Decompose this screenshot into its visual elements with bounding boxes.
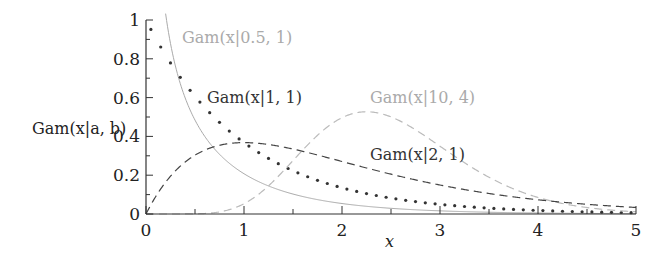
gamma-distribution-chart: 00.20.40.60.81012345 Gam(x|a, b) x Gam(x…: [0, 0, 668, 254]
x-tick-label: 4: [533, 220, 544, 240]
curve-label-gam-1-1: Gam(x|1, 1): [207, 88, 302, 107]
x-tick-label: 0: [141, 220, 152, 240]
y-axis-label: Gam(x|a, b): [32, 119, 126, 138]
y-tick-label: 0.8: [113, 49, 140, 69]
x-tick-label: 5: [631, 220, 642, 240]
y-tick-label: 0.2: [113, 165, 140, 185]
x-tick-label: 2: [337, 220, 348, 240]
curve-label-gam-0.5-1: Gam(x|0.5, 1): [182, 28, 292, 47]
x-tick-label: 1: [239, 220, 250, 240]
curve-label-gam-10-4: Gam(x|10, 4): [370, 88, 475, 107]
y-tick-label: 0.6: [113, 88, 140, 108]
series-gam-x-1-1-: [149, 28, 632, 214]
curve-label-gam-2-1: Gam(x|2, 1): [370, 145, 465, 164]
y-tick-label: 1: [129, 10, 140, 30]
x-tick-label: 3: [435, 220, 446, 240]
y-tick-label: 0: [129, 204, 140, 224]
x-axis-label: x: [385, 232, 394, 251]
